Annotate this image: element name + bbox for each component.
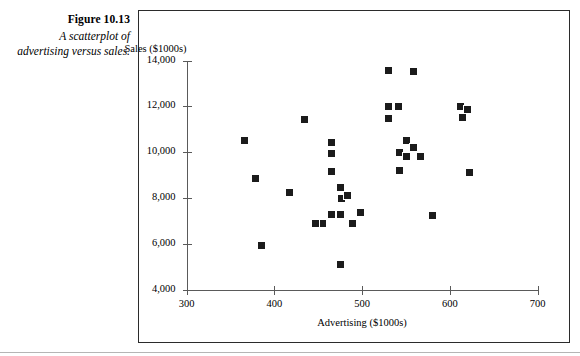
page-rule (0, 352, 580, 353)
scatter-point (396, 167, 403, 174)
scatter-point (385, 103, 392, 110)
scatter-point (385, 115, 392, 122)
scatter-point (301, 116, 308, 123)
scatter-point (312, 220, 319, 227)
scatter-point (396, 149, 403, 156)
scatter-point (459, 114, 466, 121)
scatter-points-layer (0, 0, 580, 356)
scatter-point (344, 192, 351, 199)
scatter-point (417, 153, 424, 160)
scatter-point (410, 144, 417, 151)
scatter-point (464, 106, 471, 113)
scatter-point (337, 261, 344, 268)
scatter-point (337, 184, 344, 191)
scatter-point (328, 139, 335, 146)
scatter-point (403, 137, 410, 144)
scatter-point (349, 220, 356, 227)
scatter-point (252, 175, 259, 182)
scatter-point (457, 103, 464, 110)
scatter-point (328, 168, 335, 175)
figure-container: Figure 10.13 A scatterplot of advertisin… (0, 0, 580, 356)
scatter-point (241, 137, 248, 144)
scatter-point (286, 189, 293, 196)
scatter-point (410, 68, 417, 75)
scatter-point (258, 242, 265, 249)
scatter-point (328, 150, 335, 157)
scatter-point (403, 153, 410, 160)
scatter-point (429, 212, 436, 219)
scatter-point (337, 211, 344, 218)
scatter-point (466, 169, 473, 176)
scatter-point (395, 103, 402, 110)
scatter-point (357, 209, 364, 216)
scatter-point (328, 211, 335, 218)
scatter-point (319, 220, 326, 227)
scatter-point (385, 67, 392, 74)
